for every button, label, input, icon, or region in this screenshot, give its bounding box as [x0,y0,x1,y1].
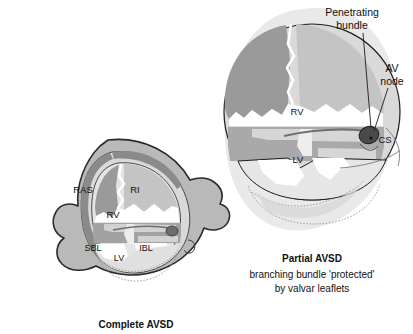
label-sbl: SBL [84,243,101,253]
label-ibl: IBL [139,243,153,253]
avsd-diagram: RV LV Penetrating bundle AV node CS Part… [0,0,413,334]
caption-partial-avsd-line1: branching bundle 'protected' [249,269,374,280]
complete-avsd-panel: RAS RI RV SBL IBL LV Complete AVSD [53,139,229,330]
leaflet-light-wedge-left [252,129,306,140]
caption-partial-avsd-line2: by valvar leaflets [275,283,349,294]
complete-av-node-marker [166,226,178,236]
complete-leaflet-light-lower-right [138,236,178,242]
label-lv-partial: LV [293,154,305,165]
annotation-av-node-line2: node [380,75,404,87]
caption-partial-avsd-title: Partial AVSD [282,253,342,264]
partial-right-atrium-mass [225,25,290,119]
annotation-av-node-line1: AV [385,62,398,74]
figure-canvas: RV LV Penetrating bundle AV node CS Part… [0,0,413,334]
label-rv-complete: RV [106,209,120,220]
label-rv-partial: RV [290,106,304,117]
annotation-penetrating-bundle-line2: bundle [336,19,368,31]
partial-avsd-panel: RV LV Penetrating bundle AV node CS Part… [224,6,404,294]
caption-complete-avsd-title: Complete AVSD [98,319,173,330]
label-lv-complete: LV [114,253,124,263]
annotation-penetrating-bundle-line1: Penetrating [325,6,379,18]
label-ri: RI [130,184,140,195]
label-ras: RAS [73,184,93,195]
av-node-dot [370,137,373,140]
annotation-coronary-sinus: CS [378,134,391,145]
